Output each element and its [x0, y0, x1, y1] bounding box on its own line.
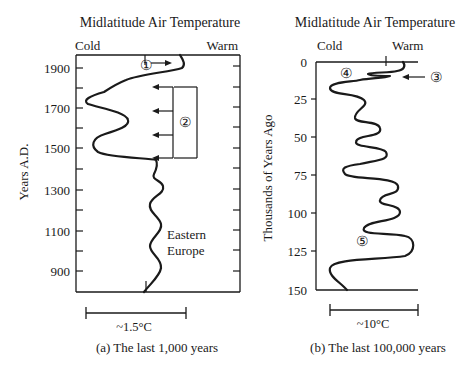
panel-a-tick-900: 900: [51, 264, 71, 279]
panel-a-marker-2: ②: [179, 115, 192, 130]
panel-a-right-ticks: [233, 66, 240, 271]
panel-b-marker-5: ⑤: [356, 234, 369, 249]
figure-canvas: Midlatitude Air Temperature Cold Warm: [0, 0, 464, 368]
panel-b-tick-50: 50: [294, 130, 307, 145]
panel-a-caption: (a) The last 1,000 years: [96, 340, 218, 355]
panel-a-ylabel: Years A.D.: [16, 144, 31, 201]
panel-a-region-line2: Europe: [167, 243, 205, 258]
panel-a-cold-label: Cold: [75, 38, 101, 53]
panel-b-scale-bar: [330, 304, 418, 316]
panel-a: Midlatitude Air Temperature Cold Warm: [16, 15, 240, 355]
panel-a-tick-1300: 1300: [44, 183, 70, 198]
panel-a-region-line1: Eastern: [167, 227, 206, 242]
panel-b: Midlatitude Air Temperature Cold Warm 0 …: [260, 15, 455, 355]
panel-a-marker-1: ①: [140, 58, 153, 73]
panel-b-tick-75: 75: [294, 168, 307, 183]
panel-b-cold-label: Cold: [317, 38, 343, 53]
panel-b-title: Midlatitude Air Temperature: [295, 15, 456, 30]
panel-b-scale-label: ~10°C: [357, 317, 390, 331]
panel-b-tick-25: 25: [294, 92, 307, 107]
panel-a-scale-bar: [86, 307, 186, 319]
panel-a-scale-label: ~1.5°C: [116, 320, 152, 334]
panel-b-ylabel: Thousands of Years Ago: [260, 114, 275, 241]
panel-b-tick-125: 125: [288, 244, 308, 259]
arrow-left-icon: [152, 108, 159, 114]
panel-b-temperature-curve: [330, 62, 413, 290]
panel-b-tick-150: 150: [288, 283, 308, 298]
panel-b-left-ticks: [311, 99, 316, 251]
arrow-right-icon: [165, 60, 172, 66]
panel-a-tick-1100: 1100: [44, 224, 70, 239]
panel-a-tick-1500: 1500: [44, 141, 70, 156]
panel-b-tick-0: 0: [301, 55, 308, 70]
panel-a-tick-1700: 1700: [44, 101, 70, 116]
panel-b-warm-label: Warm: [392, 38, 423, 53]
arrow-left-icon: [402, 74, 409, 80]
panel-b-caption: (b) The last 100,000 years: [310, 340, 446, 355]
panel-a-marker-2-arrowheads: [152, 84, 159, 161]
panel-b-marker-4: ④: [340, 66, 353, 81]
panel-a-left-ticks: [76, 68, 83, 271]
panel-a-title: Midlatitude Air Temperature: [80, 15, 241, 30]
arrow-left-icon: [152, 84, 159, 90]
panel-b-tick-100: 100: [288, 206, 308, 221]
panel-a-tick-1900: 1900: [44, 61, 70, 76]
arrow-left-icon: [152, 132, 159, 138]
panel-b-marker-3: ③: [430, 70, 443, 85]
panel-a-warm-label: Warm: [207, 38, 238, 53]
